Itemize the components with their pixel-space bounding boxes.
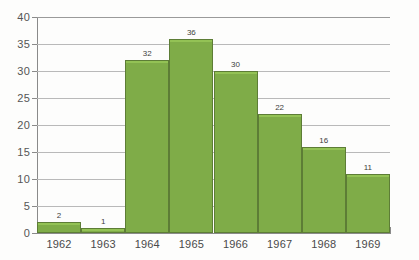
bar-group: 16	[302, 17, 346, 233]
bar-1968[interactable]	[302, 147, 346, 233]
bar-value-label: 16	[302, 136, 346, 145]
bar-top-highlight	[303, 148, 345, 150]
bar-top-highlight	[82, 229, 124, 231]
y-tick-label: 15	[4, 147, 30, 158]
y-tick-mark-40	[32, 17, 37, 18]
bar-group: 11	[346, 17, 390, 233]
gridline-0	[37, 233, 390, 234]
y-tick-label: 0	[4, 228, 30, 239]
bar-1966[interactable]	[214, 71, 258, 233]
bar-value-label: 32	[125, 49, 169, 58]
bar-value-label: 22	[258, 103, 302, 112]
y-tick-label: 35	[4, 39, 30, 50]
bar-group: 2	[37, 17, 81, 233]
y-tick-label: 20	[4, 120, 30, 131]
y-tick-mark-20	[32, 125, 37, 126]
bar-1964[interactable]	[125, 60, 169, 233]
y-tick-mark-35	[32, 44, 37, 45]
bar-value-label: 2	[37, 211, 81, 220]
x-tick-label-1969: 1969	[340, 238, 396, 250]
x-axis-labels: 19621963196419651966196719681969	[37, 238, 390, 254]
y-tick-mark-25	[32, 98, 37, 99]
bar-value-label: 30	[214, 60, 258, 69]
bar-value-label: 36	[169, 28, 213, 37]
bar-top-highlight	[38, 223, 80, 225]
bar-1965[interactable]	[169, 39, 213, 233]
bar-top-highlight	[170, 40, 212, 42]
y-axis-labels: 0510152025303540	[0, 0, 30, 260]
bar-top-highlight	[347, 175, 389, 177]
bar-group: 22	[258, 17, 302, 233]
plot-area: 21323630221611	[37, 17, 390, 233]
bar-group: 1	[81, 17, 125, 233]
bar-1963[interactable]	[81, 228, 125, 233]
y-tick-mark-30	[32, 71, 37, 72]
bar-group: 30	[214, 17, 258, 233]
bar-top-highlight	[215, 72, 257, 74]
bar-group: 36	[169, 17, 213, 233]
y-tick-mark-5	[32, 206, 37, 207]
bar-top-highlight	[259, 115, 301, 117]
y-tick-label: 10	[4, 174, 30, 185]
bar-top-highlight	[126, 61, 168, 63]
y-tick-mark-0	[32, 233, 37, 234]
bar-chart: 0510152025303540 21323630221611 19621963…	[0, 0, 419, 260]
y-tick-mark-15	[32, 152, 37, 153]
y-tick-label: 5	[4, 201, 30, 212]
bar-group: 32	[125, 17, 169, 233]
bar-value-label: 1	[81, 217, 125, 226]
x-axis-end-cap	[390, 227, 391, 234]
y-tick-label: 30	[4, 66, 30, 77]
bar-value-label: 11	[346, 163, 390, 172]
bar-1962[interactable]	[37, 222, 81, 233]
bar-1969[interactable]	[346, 174, 390, 233]
y-tick-label: 40	[4, 12, 30, 23]
y-tick-label: 25	[4, 93, 30, 104]
bar-1967[interactable]	[258, 114, 302, 233]
y-tick-mark-10	[32, 179, 37, 180]
